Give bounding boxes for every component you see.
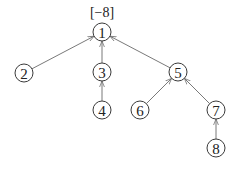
node-label: 3 xyxy=(98,65,106,81)
nodes-group: 12345678 xyxy=(15,23,225,157)
node-label: 5 xyxy=(174,65,182,81)
node-label: 6 xyxy=(136,103,144,119)
node-label: 2 xyxy=(20,66,28,82)
tree-node-7: 7 xyxy=(207,101,225,119)
node-label: 7 xyxy=(212,103,220,119)
tree-node-1: 1 xyxy=(93,23,111,41)
edge-7-to-5 xyxy=(184,78,209,103)
node-label: 4 xyxy=(98,103,106,119)
node-label: 8 xyxy=(212,141,220,157)
tree-node-2: 2 xyxy=(15,64,33,82)
tree-node-4: 4 xyxy=(93,101,111,119)
tree-diagram: 12345678 [−8] xyxy=(0,0,233,169)
tree-node-8: 8 xyxy=(207,139,225,157)
tree-node-5: 5 xyxy=(169,63,187,81)
node-label: 1 xyxy=(98,25,106,41)
tree-node-3: 3 xyxy=(93,63,111,81)
root-annotation: [−8] xyxy=(90,5,114,20)
edge-6-to-5 xyxy=(146,78,171,103)
edge-5-to-1 xyxy=(110,36,170,68)
edge-2-to-1 xyxy=(32,36,94,69)
edges-group xyxy=(32,36,216,139)
tree-node-6: 6 xyxy=(131,101,149,119)
